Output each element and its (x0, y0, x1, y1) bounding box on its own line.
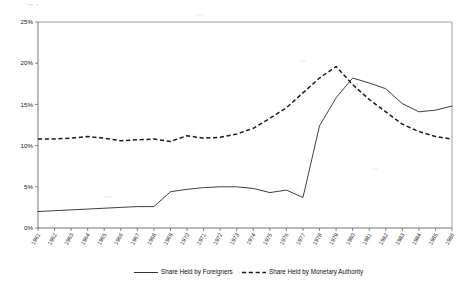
x-tick-label: 1962 (47, 232, 58, 246)
series-share-held-by-foreigners (38, 78, 452, 211)
x-tick-label: 1961 (30, 232, 41, 246)
y-tick-label: 20% (21, 59, 34, 66)
x-axis: 1961196219631964196519661967196819691970… (30, 228, 455, 246)
chart-legend: Share Held by Foreigners Share Held by M… (134, 268, 364, 276)
series-share-held-by-monetary-authority (38, 67, 452, 142)
x-tick-label: 1971 (196, 232, 207, 246)
line-chart: 0%5%10%15%20%25% 19611962196319641965196… (0, 0, 469, 285)
x-tick-label: 1983 (394, 232, 405, 246)
x-tick-label: 1979 (328, 232, 339, 246)
plot-frame (38, 22, 452, 228)
x-tick-label: 1977 (295, 232, 306, 246)
y-tick-label: 0% (24, 224, 33, 231)
x-tick-label: 1965 (96, 232, 107, 246)
x-tick-label: 1985 (427, 232, 438, 246)
legend-label-monetary-authority: Share Held by Monetary Authority (269, 268, 364, 276)
x-tick-label: 1975 (262, 232, 273, 246)
x-tick-label: 1970 (179, 232, 190, 246)
x-tick-label: 1980 (345, 232, 356, 246)
legend-label-foreigners: Share Held by Foreigners (161, 268, 233, 276)
series-group (38, 67, 452, 212)
x-tick-label: 1969 (162, 232, 173, 246)
x-tick-label: 1982 (378, 232, 389, 246)
x-tick-label: 1978 (311, 232, 322, 246)
chart-figure: 0%5%10%15%20%25% 19611962196319641965196… (0, 0, 469, 285)
x-tick-label: 1968 (146, 232, 157, 246)
y-tick-label: 5% (24, 183, 33, 190)
y-axis: 0%5%10%15%20%25% (21, 18, 38, 231)
x-tick-label: 1986 (444, 232, 455, 246)
y-tick-label: 15% (21, 101, 34, 108)
x-tick-label: 1974 (245, 232, 256, 246)
x-tick-label: 1984 (411, 232, 422, 246)
x-tick-label: 1966 (113, 232, 124, 246)
y-tick-label: 10% (21, 142, 34, 149)
x-tick-label: 1981 (361, 232, 372, 246)
x-tick-label: 1973 (229, 232, 240, 246)
x-tick-label: 1964 (80, 232, 91, 246)
x-tick-label: 1972 (212, 232, 223, 246)
x-tick-label: 1976 (278, 232, 289, 246)
x-tick-label: 1967 (129, 232, 140, 246)
x-tick-label: 1963 (63, 232, 74, 246)
y-tick-label: 25% (21, 18, 34, 25)
